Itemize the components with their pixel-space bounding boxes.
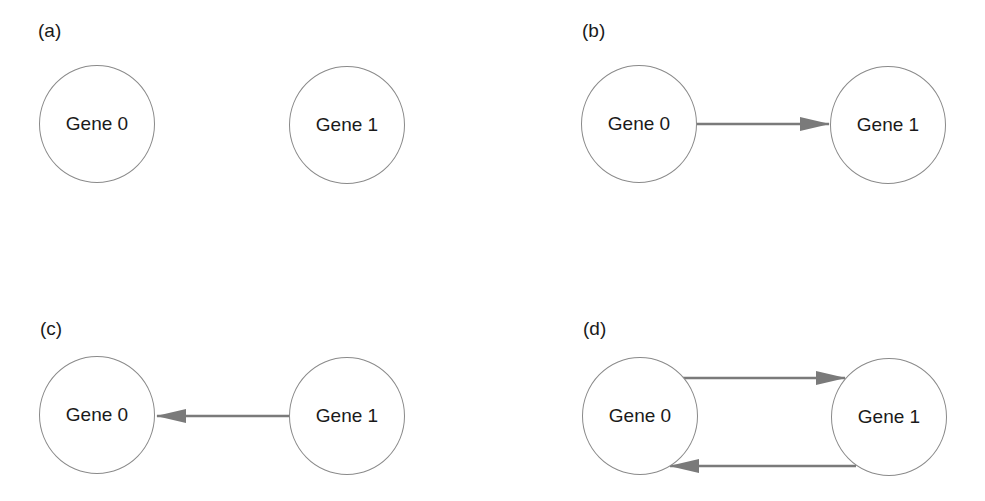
- node-label: Gene 1: [857, 114, 919, 136]
- node-b-gene-0: Gene 0: [581, 65, 697, 183]
- panel-label-a: (a): [38, 20, 61, 42]
- node-d-gene-0: Gene 0: [582, 357, 698, 475]
- panel-label-c: (c): [40, 318, 62, 340]
- panel-label-d: (d): [583, 318, 606, 340]
- node-label: Gene 0: [608, 113, 670, 135]
- panel-label-b: (b): [582, 20, 605, 42]
- node-b-gene-1: Gene 1: [830, 66, 946, 184]
- node-c-gene-0: Gene 0: [39, 356, 155, 474]
- node-a-gene-0: Gene 0: [39, 65, 155, 183]
- node-label: Gene 1: [316, 405, 378, 427]
- node-label: Gene 0: [609, 405, 671, 427]
- node-label: Gene 1: [858, 406, 920, 428]
- node-a-gene-1: Gene 1: [289, 66, 405, 184]
- node-label: Gene 1: [316, 114, 378, 136]
- node-label: Gene 0: [66, 404, 128, 426]
- node-d-gene-1: Gene 1: [831, 358, 947, 476]
- node-c-gene-1: Gene 1: [289, 357, 405, 475]
- node-label: Gene 0: [66, 113, 128, 135]
